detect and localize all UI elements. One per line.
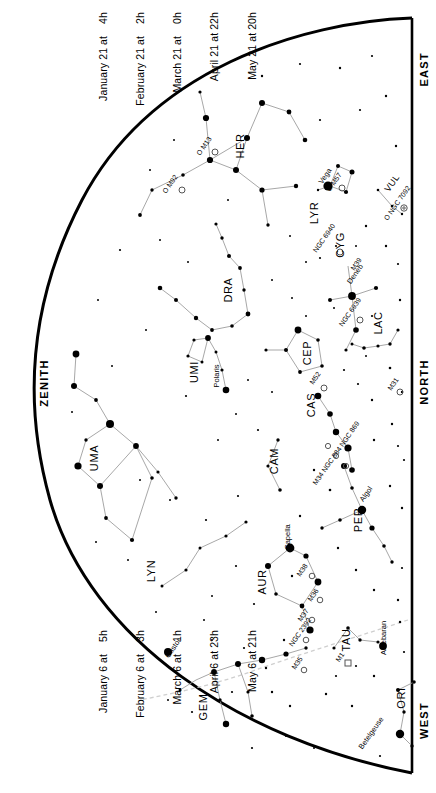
constellation-label-tau: TAU	[340, 629, 352, 652]
constellation-label-cep: CEP	[301, 341, 313, 365]
constellation-label-umi: UMI	[188, 361, 200, 383]
cardinal-label-north: NORTH	[418, 359, 430, 405]
star-label-polaris: Polaris	[212, 365, 221, 388]
constellation-label-aur: AUR	[256, 569, 268, 594]
constellation-label-per: PER	[352, 508, 364, 532]
constellation-label-uma: UMA	[88, 445, 100, 471]
star-label-capella: Capella	[283, 524, 292, 549]
constellation-label-ori: ORI	[395, 687, 407, 708]
caption-bottom-line: April 6 at 23h	[208, 630, 220, 718]
caption-bottom-line: May 6 at 21h	[246, 630, 258, 718]
zenith-label: ZENITH	[38, 359, 50, 407]
caption-top-line: February 21 at 2h	[134, 12, 146, 106]
constellation-label-lyr: LYR	[308, 202, 320, 224]
caption-top: January 21 at 4h February 21 at 2h March…	[72, 12, 283, 106]
caption-top-line: April 21 at 22h	[208, 12, 220, 106]
constellation-label-cyg: CYG	[334, 232, 346, 258]
caption-top-line: March 21 at 0h	[171, 12, 183, 106]
constellation-label-her: HER	[234, 133, 246, 158]
constellation-label-lyn: LYN	[145, 560, 157, 582]
constellation-label-dra: DRA	[222, 277, 234, 302]
constellation-label-lac: LAC	[372, 311, 384, 334]
caption-bottom-line: January 6 at 5h	[97, 630, 109, 718]
constellation-label-cam: CAM	[268, 448, 280, 474]
cardinal-label-west: WEST	[418, 702, 430, 739]
constellation-label-gem: GEM	[197, 694, 209, 721]
star-label-aldebaran: Aldebaran	[379, 621, 388, 655]
caption-top-line: May 21 at 20h	[246, 12, 258, 106]
constellation-label-cas: CAS	[305, 393, 317, 417]
cardinal-label-east: EAST	[418, 52, 430, 87]
caption-bottom-line: February 6 at 3h	[134, 630, 146, 718]
deep-sky-symbols	[179, 149, 407, 673]
caption-top-line: January 21 at 4h	[97, 12, 109, 106]
star-chart: January 21 at 4h February 21 at 2h March…	[0, 0, 436, 793]
